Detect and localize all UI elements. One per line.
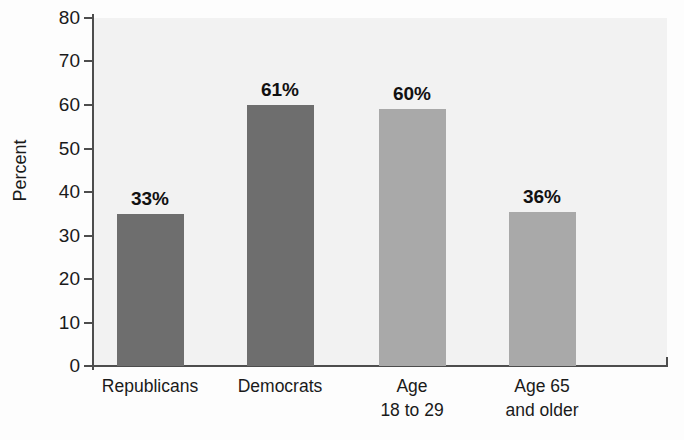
- bar-column-age-65-and-older: 36%: [475, 18, 609, 366]
- y-tick-label-80: 80: [36, 8, 80, 27]
- y-tick-label-70: 70: [36, 51, 80, 70]
- bar-age-65-and-older[interactable]: [509, 212, 576, 366]
- y-tick-label-20-wrap: 20: [14, 269, 80, 289]
- y-tick-label-0-wrap: 0: [14, 356, 80, 376]
- x-category-label-line: Age 65: [457, 375, 627, 399]
- y-tick-label-60: 60: [36, 95, 80, 114]
- x-category-label-line: and older: [457, 399, 627, 423]
- bar-republicans[interactable]: [117, 214, 184, 366]
- bar-value-label-republicans: 33%: [83, 189, 217, 208]
- bar-column-republicans: 33%: [83, 18, 217, 366]
- y-tick-label-40: 40: [36, 182, 80, 201]
- bar-chart: 80 70 60 50 40 30 20 10 0 Percent 33% 61…: [0, 0, 684, 440]
- y-tick-label-80-wrap: 80: [14, 8, 80, 28]
- y-tick-label-0: 0: [36, 356, 80, 375]
- y-tick-label-70-wrap: 70: [14, 51, 80, 71]
- y-tick-label-20: 20: [36, 269, 80, 288]
- y-tick-label-10-wrap: 10: [14, 313, 80, 333]
- x-category-label-age-65-and-older: Age 65and older: [457, 375, 627, 422]
- y-tick-label-50: 50: [36, 139, 80, 158]
- bar-value-label-age-65-and-older: 36%: [475, 187, 609, 206]
- bar-value-label-democrats: 61%: [213, 80, 347, 99]
- bar-age-18-to-29[interactable]: [379, 109, 446, 366]
- x-axis-right-cap: [666, 357, 668, 367]
- bar-democrats[interactable]: [247, 105, 314, 366]
- bar-value-label-age-18-to-29: 60%: [345, 84, 479, 103]
- y-axis-title: Percent: [10, 111, 31, 231]
- y-tick-label-10: 10: [36, 313, 80, 332]
- bar-column-democrats: 61%: [213, 18, 347, 366]
- y-tick-label-30: 30: [36, 226, 80, 245]
- bar-column-age-18-to-29: 60%: [345, 18, 479, 366]
